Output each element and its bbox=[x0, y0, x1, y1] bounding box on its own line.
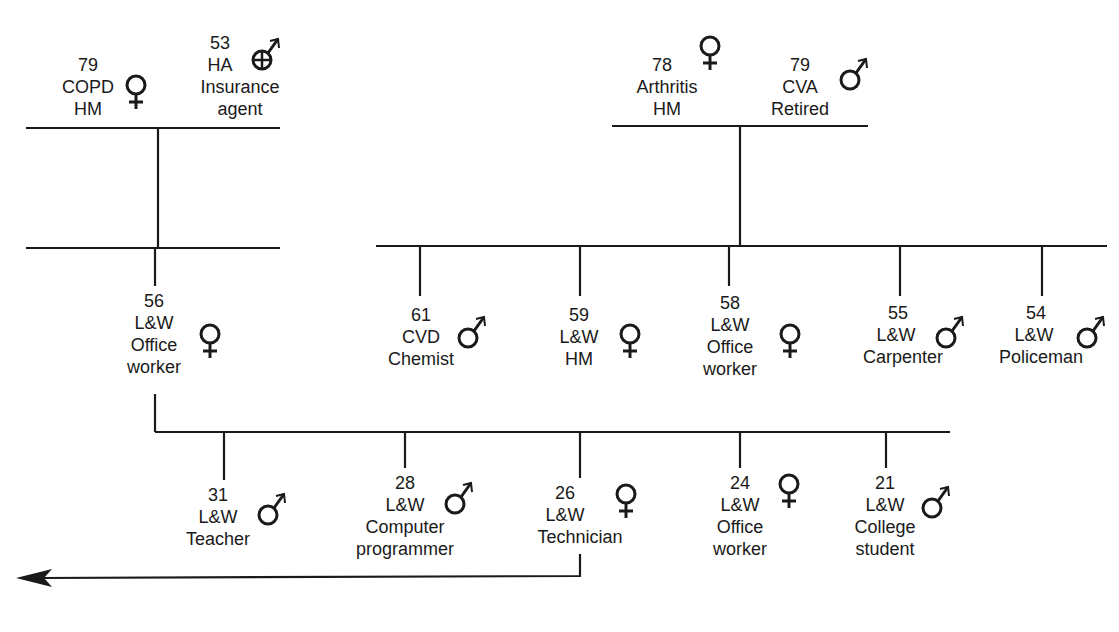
occupation-label-2: worker bbox=[690, 358, 770, 380]
person-61-male: 61 CVD Chemist bbox=[376, 304, 466, 370]
condition-label: L&W bbox=[690, 314, 770, 336]
person-53-male-deceased: 53 HA Insurance agent bbox=[190, 32, 290, 120]
occupation-label: Computer bbox=[340, 516, 470, 538]
occupation-label: Teacher bbox=[178, 528, 258, 550]
age-label: 59 bbox=[544, 304, 614, 326]
index-arrow-line bbox=[40, 554, 580, 578]
occupation-label: Carpenter bbox=[848, 346, 958, 368]
person-79-male-cva: 79 CVA Retired bbox=[760, 54, 840, 120]
condition-label: L&W bbox=[834, 324, 958, 346]
female-symbol-icon bbox=[781, 325, 799, 358]
occupation-label: HM bbox=[622, 98, 712, 120]
occupation-label-2: worker bbox=[114, 356, 194, 378]
occupation-label: HM bbox=[48, 98, 128, 120]
age-label: 53 bbox=[150, 32, 290, 54]
person-58-female: 58 L&W Office worker bbox=[690, 292, 770, 380]
age-label: 56 bbox=[114, 290, 194, 312]
occupation-label: Office bbox=[690, 336, 770, 358]
age-label: 58 bbox=[690, 292, 770, 314]
occupation-label: Insurance bbox=[190, 76, 290, 98]
age-label: 28 bbox=[340, 472, 470, 494]
age-label: 61 bbox=[376, 304, 466, 326]
condition-label: L&W bbox=[114, 312, 194, 334]
age-label: 54 bbox=[976, 302, 1096, 324]
occupation-label-2: programmer bbox=[340, 538, 470, 560]
condition-label: CVA bbox=[760, 76, 840, 98]
occupation-label: College bbox=[840, 516, 930, 538]
occupation-label-2: agent bbox=[190, 98, 290, 120]
age-label: 78 bbox=[612, 54, 712, 76]
condition-label: L&W bbox=[700, 494, 780, 516]
condition-label: COPD bbox=[48, 76, 128, 98]
female-symbol-icon bbox=[201, 325, 219, 358]
condition-label: HA bbox=[150, 54, 290, 76]
occupation-label: Retired bbox=[760, 98, 840, 120]
person-59-female: 59 L&W HM bbox=[544, 304, 614, 370]
condition-label: CVD bbox=[376, 326, 466, 348]
occupation-label: Technician bbox=[520, 526, 640, 548]
male-symbol-icon bbox=[259, 494, 285, 524]
age-label: 21 bbox=[840, 472, 930, 494]
person-79-female-copd: 79 COPD HM bbox=[48, 54, 128, 120]
age-label: 26 bbox=[490, 482, 640, 504]
age-label: 79 bbox=[760, 54, 840, 76]
occupation-label: Office bbox=[114, 334, 194, 356]
condition-label: L&W bbox=[178, 506, 258, 528]
condition-label: L&W bbox=[340, 494, 470, 516]
person-54-male: 54 L&W Policeman bbox=[986, 302, 1096, 368]
age-label: 55 bbox=[838, 302, 958, 324]
female-symbol-icon bbox=[621, 325, 639, 358]
person-55-male: 55 L&W Carpenter bbox=[848, 302, 958, 368]
person-56-female: 56 L&W Office worker bbox=[114, 290, 194, 378]
occupation-label-2: worker bbox=[700, 538, 780, 560]
condition-label: L&W bbox=[490, 504, 640, 526]
person-24-female: 24 L&W Office worker bbox=[700, 472, 780, 560]
occupation-label: Policeman bbox=[986, 346, 1096, 368]
age-label: 79 bbox=[48, 54, 128, 76]
person-26-female-index: 26 L&W Technician bbox=[520, 482, 640, 548]
female-symbol-icon bbox=[780, 475, 798, 508]
male-symbol-icon bbox=[841, 59, 867, 89]
occupation-label: Chemist bbox=[376, 348, 466, 370]
condition-label: L&W bbox=[840, 494, 930, 516]
person-21-male: 21 L&W College student bbox=[840, 472, 930, 560]
age-label: 24 bbox=[700, 472, 780, 494]
condition-label: L&W bbox=[544, 326, 614, 348]
female-symbol-icon bbox=[127, 76, 145, 109]
person-78-female-arthritis: 78 Arthritis HM bbox=[622, 54, 712, 120]
person-28-male: 28 L&W Computer programmer bbox=[340, 472, 470, 560]
person-31-male: 31 L&W Teacher bbox=[178, 484, 258, 550]
occupation-label-2: student bbox=[840, 538, 930, 560]
occupation-label: Office bbox=[700, 516, 780, 538]
condition-label: L&W bbox=[972, 324, 1096, 346]
age-label: 31 bbox=[178, 484, 258, 506]
condition-label: Arthritis bbox=[622, 76, 712, 98]
occupation-label: HM bbox=[544, 348, 614, 370]
